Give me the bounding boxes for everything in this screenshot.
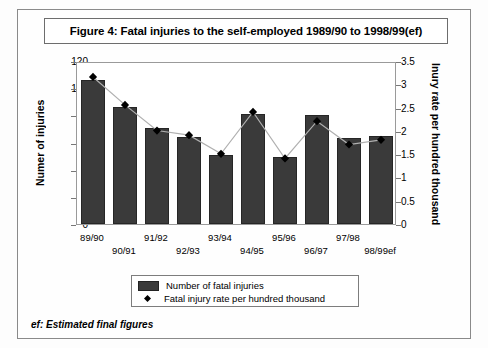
- y2-tick-label: 1: [401, 173, 427, 183]
- x-tick-label-93/94: 93/94: [197, 233, 243, 243]
- y2-tick-label: 0.5: [401, 197, 427, 207]
- legend-item-bars: Number of fatal injuries: [138, 279, 352, 292]
- rate-line-series: [77, 63, 397, 226]
- rate-marker-92/93: [185, 131, 193, 139]
- y2-tick-label: 2.5: [401, 104, 427, 114]
- x-tick-label-98/99ef: 98/99ef: [357, 246, 403, 256]
- y2-tick-label: 2: [401, 127, 427, 137]
- x-tick-label-95/96: 95/96: [261, 233, 307, 243]
- y-axis-title-left: Numer of injuries: [33, 63, 47, 223]
- rate-marker-97/98: [345, 140, 353, 148]
- y2-tick-label: 3: [401, 80, 427, 90]
- legend: Number of fatal injuries Fatal injury ra…: [131, 275, 359, 307]
- page-title: Figure 4: Fatal injuries to the self-emp…: [70, 25, 422, 37]
- y2-tick-label: 3.5: [401, 57, 427, 67]
- legend-label-line: Fatal injury rate per hundred thousand: [164, 293, 325, 304]
- bar-swatch-icon: [138, 281, 159, 291]
- figure-footnote: ef: Estimated final figures: [31, 319, 153, 330]
- y2-tick-label: 0: [401, 220, 427, 230]
- x-tick-label-91/92: 91/92: [133, 233, 179, 243]
- y2-tick-label: 1.5: [401, 150, 427, 160]
- legend-label-bars: Number of fatal injuries: [166, 280, 264, 291]
- x-tick-label-94/95: 94/95: [229, 246, 275, 256]
- x-tick-label-97/98: 97/98: [325, 233, 371, 243]
- x-tick-label-96/97: 96/97: [293, 246, 339, 256]
- x-tick-label-92/93: 92/93: [165, 246, 211, 256]
- diamond-marker-icon: [138, 294, 157, 303]
- rate-line: [93, 77, 381, 159]
- figure-title-box: Figure 4: Fatal injuries to the self-emp…: [44, 18, 448, 44]
- figure-page: Figure 4: Fatal injuries to the self-emp…: [0, 0, 488, 348]
- rate-marker-98/99ef: [377, 136, 385, 144]
- y-axis-title-right: Inury rate per hundred thousand: [428, 58, 443, 230]
- plot-area: [76, 62, 396, 225]
- legend-item-line: Fatal injury rate per hundred thousand: [138, 292, 352, 305]
- x-tick-label-89/90: 89/90: [69, 233, 115, 243]
- x-tick-label-90/91: 90/91: [101, 246, 147, 256]
- y-tick-mark: [71, 225, 76, 226]
